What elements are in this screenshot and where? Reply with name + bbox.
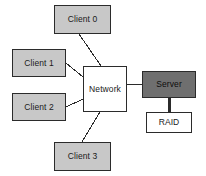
network-topology-diagram: Client 0Client 1Client 2Client 3NetworkS…: [0, 0, 206, 176]
node-label-client0: Client 0: [68, 15, 98, 24]
edge-client1-network: [66, 63, 83, 77]
node-label-network: Network: [89, 85, 121, 94]
node-client1[interactable]: Client 1: [12, 49, 66, 77]
node-server[interactable]: Server: [142, 71, 196, 98]
edge-client3-network: [82, 112, 100, 142]
node-client3[interactable]: Client 3: [54, 142, 111, 171]
node-client2[interactable]: Client 2: [12, 93, 66, 121]
node-label-raid: RAID: [159, 118, 180, 127]
node-label-client3: Client 3: [68, 152, 98, 161]
node-label-client2: Client 2: [24, 103, 54, 112]
edge-client2-network: [66, 99, 83, 107]
node-label-client1: Client 1: [24, 59, 54, 68]
node-raid[interactable]: RAID: [146, 112, 192, 133]
node-client0[interactable]: Client 0: [54, 5, 111, 34]
edge-client0-network: [79, 34, 101, 66]
node-network[interactable]: Network: [83, 66, 127, 112]
node-label-server: Server: [156, 80, 182, 89]
